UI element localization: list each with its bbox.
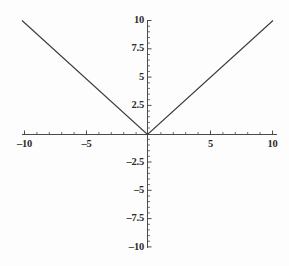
y-tick-label-neg-7-5: –7.5	[126, 213, 144, 224]
x-tick-label-5: 5	[196, 139, 225, 150]
y-tick-label-neg-2-5: –2.5	[126, 157, 144, 168]
y-tick-label-7-5: 7.5	[131, 43, 144, 54]
y-tick-label-2-5: 2.5	[131, 100, 144, 111]
x-tick-label-neg-10: –10	[10, 139, 39, 150]
y-tick-label-neg-5: –5	[134, 185, 144, 196]
y-tick-label-neg-10: –10	[129, 242, 144, 253]
plot-figure: 10 7.5 5 2.5 –2.5 –5 –7.5 –10 –10 –5 5 1…	[0, 0, 289, 266]
plot-canvas	[0, 0, 289, 266]
y-tick-label-5: 5	[139, 72, 144, 83]
x-tick-label-10: 10	[258, 139, 287, 150]
y-tick-label-10: 10	[134, 15, 144, 26]
x-tick-label-neg-5: –5	[72, 139, 101, 150]
